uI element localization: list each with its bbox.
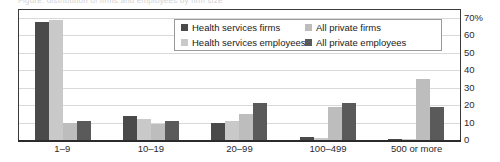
bar xyxy=(151,124,165,140)
bar xyxy=(328,107,342,140)
bar xyxy=(77,121,91,140)
x-axis-tick-label: 500 or more xyxy=(373,143,461,155)
bar-group xyxy=(123,10,179,140)
legend-label: All private firms xyxy=(316,22,381,33)
bar xyxy=(239,114,253,140)
chart-container: Figure: distribution of firms and employ… xyxy=(0,0,500,162)
bar xyxy=(63,123,77,140)
y-axis-tick-label: 30 xyxy=(464,83,475,93)
legend-label: Health services firms xyxy=(192,22,280,33)
x-axis-tick-label: 10–19 xyxy=(107,143,195,155)
legend-swatch-icon xyxy=(181,24,188,31)
y-axis-tick-label: 70% xyxy=(464,13,483,23)
x-axis-line xyxy=(18,140,461,142)
bar xyxy=(416,79,430,140)
bar xyxy=(35,22,49,141)
legend-label: All private employees xyxy=(316,37,406,48)
legend-all-private-employees[interactable]: All private employees xyxy=(305,35,437,50)
y-axis-tick-label: 50 xyxy=(464,48,475,58)
bar xyxy=(137,119,151,140)
x-axis-tick-label: 100–499 xyxy=(284,143,372,155)
bar xyxy=(342,103,356,140)
x-axis-tick-label: 20–99 xyxy=(195,143,283,155)
legend-label: Health services employees xyxy=(192,37,306,48)
cropped-title-strip: Figure: distribution of firms and employ… xyxy=(0,0,500,7)
y-axis-labels: 70%6050403020100 xyxy=(464,0,500,162)
bar xyxy=(253,103,267,140)
x-axis-tick-label: 1–9 xyxy=(18,143,106,155)
y-axis-tick-label: 60 xyxy=(464,30,475,40)
chart-legend: Health services firmsAll private firmsHe… xyxy=(174,19,442,51)
bar xyxy=(123,116,137,140)
y-axis-tick-label: 20 xyxy=(464,100,475,110)
x-axis-labels: 1–910–1920–99100–499500 or more xyxy=(18,143,461,159)
title-fragment-text: Figure: distribution of firms and employ… xyxy=(18,0,500,5)
bar xyxy=(165,121,179,140)
bar xyxy=(49,20,63,140)
bar xyxy=(430,107,444,140)
y-axis-tick-label: 10 xyxy=(464,118,475,128)
legend-swatch-icon xyxy=(305,24,312,31)
legend-all-private-firms[interactable]: All private firms xyxy=(305,20,437,35)
bar-group xyxy=(35,10,91,140)
bar xyxy=(225,121,239,140)
legend-health-services-firms[interactable]: Health services firms xyxy=(181,20,301,35)
bar xyxy=(211,123,225,140)
y-axis-tick-label: 40 xyxy=(464,65,475,75)
legend-swatch-icon xyxy=(305,39,312,46)
y-axis-tick-label: 0 xyxy=(464,135,469,145)
legend-health-services-employees[interactable]: Health services employees xyxy=(181,35,301,50)
legend-swatch-icon xyxy=(181,39,188,46)
